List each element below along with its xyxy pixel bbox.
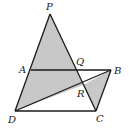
label-r: R xyxy=(76,88,85,99)
label-a: A xyxy=(18,64,26,75)
label-p: P xyxy=(45,1,53,12)
label-d: D xyxy=(7,114,16,125)
label-b: B xyxy=(113,65,121,76)
geometry-diagram: P A Q B R D C xyxy=(0,0,129,128)
label-q: Q xyxy=(76,56,84,67)
label-c: C xyxy=(96,113,104,124)
